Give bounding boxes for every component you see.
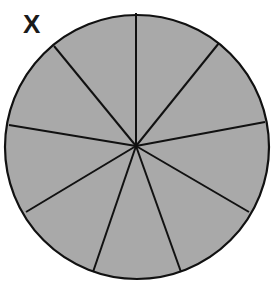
divided-circle <box>0 0 273 293</box>
